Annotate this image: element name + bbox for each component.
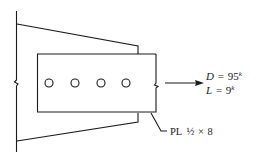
support-line <box>15 11 19 152</box>
plate-size-label: PL ½ × 8 <box>170 126 213 137</box>
gusset-bottom-edge <box>17 113 138 141</box>
bolt-hole-3 <box>97 79 105 87</box>
connection-diagram: D = 95k L = 9k PL ½ × 8 <box>0 0 261 158</box>
bolt-hole-2 <box>71 79 79 87</box>
load-arrow-head <box>195 80 204 86</box>
tension-plate <box>38 54 159 112</box>
live-load-label: L = 9k <box>205 84 235 96</box>
plate-leader-line <box>151 113 167 131</box>
bolt-hole-1 <box>45 79 53 87</box>
bolt-hole-4 <box>122 79 130 87</box>
gusset-top-edge <box>17 24 138 54</box>
dead-load-label: D = 95k <box>205 70 243 82</box>
